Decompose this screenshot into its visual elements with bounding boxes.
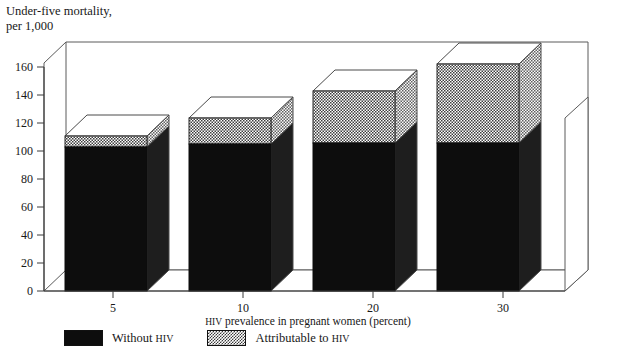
- y-tick-120: 120: [15, 116, 44, 130]
- bar-side-face-solid: [519, 122, 541, 291]
- bar-group-10[interactable]: [189, 97, 293, 291]
- bar-group-30[interactable]: [437, 43, 541, 291]
- x-axis-title-acronym: HIV: [205, 317, 222, 327]
- y-tick-label: 120: [15, 116, 33, 130]
- bar-group-20[interactable]: [313, 70, 417, 291]
- x-axis-title: HIV prevalence in pregnant women (percen…: [205, 315, 411, 328]
- y-tick-label: 140: [15, 88, 33, 102]
- bar-group-5[interactable]: [65, 115, 169, 291]
- bar-segment-attributable: [313, 91, 395, 143]
- x-tick-5: 5: [110, 291, 116, 315]
- legend-label-attributable-to-hiv: Attributable to HIV: [255, 331, 349, 346]
- y-tick-160: 160: [15, 60, 44, 74]
- bar-segment-without: [189, 144, 271, 291]
- y-axis: 160 140 120 100 80 60 40 20: [15, 60, 44, 298]
- chart-plot-area: 160 140 120 100 80 60 40 20: [0, 0, 623, 357]
- legend-item-attributable-to-hiv[interactable]: Attributable to HIV: [207, 330, 349, 346]
- y-tick-140: 140: [15, 88, 44, 102]
- y-tick-20: 20: [21, 256, 44, 270]
- y-tick-label: 40: [21, 228, 33, 242]
- x-tick-label: 10: [237, 301, 249, 315]
- legend-label-acronym: HIV: [332, 333, 350, 344]
- y-tick-label: 60: [21, 200, 33, 214]
- x-tick-30: 30: [497, 291, 509, 315]
- x-tick-20: 20: [367, 291, 379, 315]
- x-tick-label: 20: [367, 301, 379, 315]
- y-tick-label: 80: [21, 172, 33, 186]
- bar-segment-without: [65, 147, 147, 291]
- y-tick-40: 40: [21, 228, 44, 242]
- legend-swatch-hatch-icon: [207, 330, 246, 346]
- x-axis: 5 10 20 30 HIV prevalence in pregnant wo…: [44, 291, 565, 328]
- y-tick-label: 160: [15, 60, 33, 74]
- chart-legend: Without HIV Attributable to HIV: [64, 330, 350, 346]
- x-axis-title-rest: prevalence in pregnant women (percent): [222, 315, 411, 328]
- y-tick-100: 100: [15, 144, 44, 158]
- bar-side-face-solid: [395, 122, 417, 291]
- bar-segment-attributable: [437, 64, 519, 143]
- legend-item-without-hiv[interactable]: Without HIV: [64, 330, 173, 346]
- bar-segment-attributable: [189, 118, 271, 144]
- y-tick-80: 80: [21, 172, 44, 186]
- legend-label-acronym: HIV: [156, 333, 174, 344]
- y-tick-0: 0: [27, 284, 44, 298]
- bar-side-face-solid: [147, 126, 169, 291]
- bar-segment-without: [437, 143, 519, 291]
- bar-side-face-solid: [271, 123, 293, 291]
- y-tick-label: 0: [27, 284, 33, 298]
- y-tick-label: 100: [15, 144, 33, 158]
- legend-label-text: Attributable to: [255, 331, 331, 345]
- bar-segment-attributable: [65, 136, 147, 147]
- x-tick-label: 30: [497, 301, 509, 315]
- legend-swatch-solid-icon: [64, 330, 103, 346]
- y-tick-label: 20: [21, 256, 33, 270]
- legend-label-text: Without: [112, 331, 156, 345]
- y-tick-60: 60: [21, 200, 44, 214]
- x-tick-label: 5: [110, 301, 116, 315]
- x-tick-10: 10: [237, 291, 249, 315]
- bar-segment-without: [313, 143, 395, 291]
- legend-label-without-hiv: Without HIV: [112, 331, 173, 346]
